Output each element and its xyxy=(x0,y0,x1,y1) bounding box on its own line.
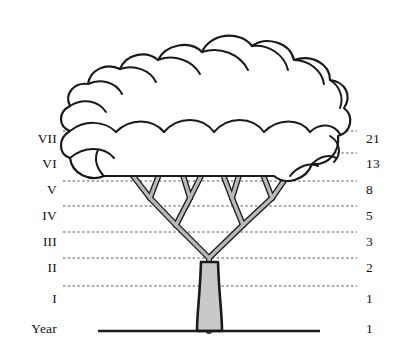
tree-illustration xyxy=(0,0,402,360)
count-label-vi: 13 xyxy=(366,157,400,171)
canopy-outline xyxy=(61,36,350,181)
generation-label-vi: VI xyxy=(0,157,57,171)
year-axis-label: Year xyxy=(0,322,57,336)
generation-label-v: V xyxy=(0,183,57,197)
tree-trunk xyxy=(197,262,222,331)
generation-label-iii: III xyxy=(0,235,57,249)
generation-label-vii: VII xyxy=(0,132,57,146)
canopy xyxy=(61,36,350,181)
generation-label-i: I xyxy=(0,292,57,306)
generation-label-iv: IV xyxy=(0,209,57,223)
count-label-vii: 21 xyxy=(366,132,400,146)
count-label-year: 1 xyxy=(366,322,400,336)
generation-label-ii: II xyxy=(0,261,57,275)
fibonacci-tree-figure: VII VI V IV III II I Year 21 13 8 5 3 2 … xyxy=(0,0,402,360)
count-label-ii: 2 xyxy=(366,261,400,275)
count-label-i: 1 xyxy=(366,292,400,306)
count-label-iii: 3 xyxy=(366,235,400,249)
count-label-v: 8 xyxy=(366,183,400,197)
count-label-iv: 5 xyxy=(366,209,400,223)
